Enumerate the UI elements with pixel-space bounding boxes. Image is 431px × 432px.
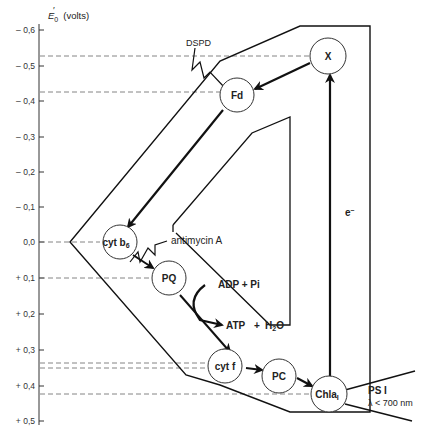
svg-text:+ 0,3: + 0,3 xyxy=(16,345,35,355)
svg-text:+ 0,4: + 0,4 xyxy=(16,381,35,391)
node-cytf: cyt f xyxy=(208,349,242,383)
svg-text:0,0: 0,0 xyxy=(23,237,35,247)
arrow-adp-to-atp xyxy=(194,285,222,325)
svg-text:+ 0,2: + 0,2 xyxy=(16,309,35,319)
svg-text:+ 0,5: + 0,5 xyxy=(16,416,35,426)
arrow-pc-to-chla xyxy=(297,378,312,386)
svg-text:H2O: H2O xyxy=(265,320,284,332)
atp-h2o-label: ATP + H2O xyxy=(226,320,284,332)
photosystem-label: PS I xyxy=(368,385,387,396)
svg-text:cyt f: cyt f xyxy=(215,361,236,372)
svg-text:+: + xyxy=(254,320,260,331)
svg-text:X: X xyxy=(325,51,332,62)
svg-text:PQ: PQ xyxy=(162,273,177,284)
svg-text:+ 0,1: + 0,1 xyxy=(16,273,35,283)
dspd-zigzag-icon xyxy=(192,48,225,88)
inhibitor-zigzags xyxy=(130,48,225,262)
svg-text:– 0,1: – 0,1 xyxy=(16,202,35,212)
adp-pi-label: ADP + Pi xyxy=(218,279,260,290)
electron-label: e– xyxy=(345,206,355,218)
svg-text:PC: PC xyxy=(272,371,286,382)
arrow-fd-to-cytb6 xyxy=(128,110,223,227)
axis-title: E0(volts) ′ xyxy=(48,4,89,23)
inner-membrane-outline xyxy=(173,117,290,325)
arrow-x-to-fd xyxy=(255,63,310,89)
svg-text:– 0,2: – 0,2 xyxy=(16,167,35,177)
node-fd: Fd xyxy=(220,78,254,112)
wavelength-label: λ < 700 nm xyxy=(368,398,413,408)
photosystem-light-lines xyxy=(345,371,415,421)
svg-text:cyt b6: cyt b6 xyxy=(102,237,129,249)
svg-text:ATP: ATP xyxy=(226,320,246,331)
svg-text:Fd: Fd xyxy=(231,90,243,101)
node-pc: PC xyxy=(262,359,296,393)
node-x: X xyxy=(310,38,346,74)
cyclic-electron-flow-diagram: E0(volts) ′ – 0,6 – 0,5 – 0,4 – 0,3 – 0,… xyxy=(0,0,431,432)
arrow-cytf-to-pc xyxy=(246,368,262,370)
svg-text:– 0,6: – 0,6 xyxy=(16,25,35,35)
node-cytb6: cyt b6 xyxy=(102,225,137,259)
potential-guide-lines xyxy=(40,56,312,394)
arrow-pq-to-cytf xyxy=(180,295,230,352)
svg-text:′: ′ xyxy=(53,4,55,15)
svg-text:– 0,3: – 0,3 xyxy=(16,132,35,142)
antimycin-label: antimycin A xyxy=(171,235,222,246)
svg-text:– 0,5: – 0,5 xyxy=(16,61,35,71)
svg-text:– 0,4: – 0,4 xyxy=(16,96,35,106)
svg-text:ChlaI: ChlaI xyxy=(315,389,339,401)
node-chla1: ChlaI xyxy=(311,376,347,412)
electron-transfer-arrows xyxy=(128,63,330,386)
dspd-label: DSPD xyxy=(186,38,212,48)
node-pq: PQ xyxy=(152,261,186,295)
axis-ticks: – 0,6 – 0,5 – 0,4 – 0,3 – 0,2 – 0,1 0,0 … xyxy=(16,25,44,426)
